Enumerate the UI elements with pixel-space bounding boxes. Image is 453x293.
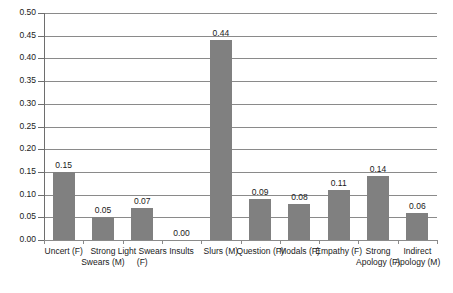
bar	[210, 40, 232, 240]
gridline	[44, 13, 437, 14]
y-axis-tick-label: 0.20	[2, 144, 36, 153]
x-axis-tick	[44, 240, 45, 244]
y-axis-tick	[38, 127, 44, 128]
y-axis-tick	[38, 36, 44, 37]
bar-value-label: 0.11	[317, 178, 361, 188]
x-axis-tick	[398, 240, 399, 244]
y-axis-tick	[38, 58, 44, 59]
bar	[288, 204, 310, 240]
x-axis-tick	[123, 240, 124, 244]
bar	[92, 217, 114, 240]
x-axis-tick	[319, 240, 320, 244]
bar-value-label: 0.15	[42, 160, 86, 170]
bar-value-label: 0.05	[81, 205, 125, 215]
bar-value-label: 0.06	[395, 201, 439, 211]
x-axis-tick	[437, 240, 438, 244]
x-axis-tick	[162, 240, 163, 244]
y-axis-tick-label: 0.30	[2, 99, 36, 108]
y-axis-tick	[38, 217, 44, 218]
y-axis-tick	[38, 104, 44, 105]
gridline	[44, 104, 437, 105]
y-axis-labels: 0.000.050.100.150.200.250.300.350.400.45…	[0, 0, 36, 293]
x-axis-tick	[280, 240, 281, 244]
bar	[53, 172, 75, 240]
x-axis-tick	[201, 240, 202, 244]
bar-value-label: 0.00	[160, 228, 204, 238]
y-axis-tick-label: 0.05	[2, 212, 36, 221]
y-axis-tick-label: 0.35	[2, 76, 36, 85]
y-axis-tick	[38, 13, 44, 14]
bar-chart: 0.000.050.100.150.200.250.300.350.400.45…	[0, 0, 453, 293]
y-axis-tick-label: 0.00	[2, 235, 36, 244]
y-axis-tick-label: 0.25	[2, 122, 36, 131]
y-axis-tick	[38, 172, 44, 173]
gridline	[44, 149, 437, 150]
y-axis-tick	[38, 149, 44, 150]
bar	[328, 190, 350, 240]
x-axis-tick	[358, 240, 359, 244]
y-axis-tick	[38, 195, 44, 196]
bar	[406, 213, 428, 240]
y-axis-line	[44, 13, 45, 241]
gridline	[44, 127, 437, 128]
bar-value-label: 0.14	[356, 164, 400, 174]
bar	[131, 208, 153, 240]
bar-value-label: 0.07	[120, 196, 164, 206]
gridline	[44, 58, 437, 59]
x-axis-tick	[83, 240, 84, 244]
y-axis-tick-label: 0.45	[2, 31, 36, 40]
bar	[249, 199, 271, 240]
y-axis-tick-label: 0.50	[2, 8, 36, 17]
x-axis-tick	[241, 240, 242, 244]
gridline	[44, 81, 437, 82]
y-axis-tick-label: 0.40	[2, 53, 36, 62]
y-axis-tick	[38, 81, 44, 82]
bar-value-label: 0.08	[277, 192, 321, 202]
x-axis-category-label: Indirect Apology (M)	[391, 246, 443, 267]
bar-value-label: 0.09	[238, 187, 282, 197]
bar-value-label: 0.44	[199, 28, 243, 38]
bar	[367, 176, 389, 240]
y-axis-tick-label: 0.15	[2, 167, 36, 176]
y-axis-tick-label: 0.10	[2, 190, 36, 199]
